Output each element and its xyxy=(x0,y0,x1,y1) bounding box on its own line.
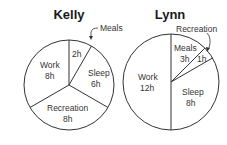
pie-charts: Meals 2h Sleep 6h Recreation 8h Work 8h … xyxy=(0,0,227,145)
lynn-recreation-callout xyxy=(207,33,210,48)
lynn-work-value: 12h xyxy=(140,83,154,93)
lynn-sleep-label: Sleep xyxy=(182,87,204,97)
kelly-meals-value: 2h xyxy=(72,49,82,59)
kelly-work-value: 8h xyxy=(45,71,55,81)
kelly-sleep-label: Sleep xyxy=(88,68,110,78)
lynn-recreation-value: 1h xyxy=(197,54,207,64)
kelly-meals-arrow-icon xyxy=(89,36,93,40)
lynn-sleep-value: 8h xyxy=(186,98,196,108)
lynn-meals-value: 3h xyxy=(180,54,190,64)
lynn-meals-label: Meals xyxy=(174,43,197,53)
lynn-work-label: Work xyxy=(138,72,158,82)
kelly-meals-callout xyxy=(91,28,98,37)
kelly-meals-callout-label: Meals xyxy=(100,23,123,33)
kelly-recreation-label: Recreation xyxy=(47,103,88,113)
kelly-sleep-value: 6h xyxy=(91,79,101,89)
lynn-recreation-callout-label: Recreation xyxy=(176,24,217,34)
kelly-work-label: Work xyxy=(40,60,60,70)
lynn-pie xyxy=(123,34,219,130)
kelly-recreation-value: 8h xyxy=(63,114,73,124)
